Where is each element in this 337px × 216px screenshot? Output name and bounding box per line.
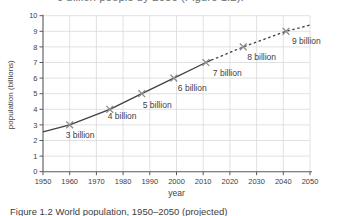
y-tick-label: 10 — [29, 11, 37, 20]
population-line-chart: 0123456789101950196019701980199020002010… — [0, 0, 337, 204]
x-tick-label: 2040 — [275, 177, 292, 186]
x-tick-label: 2050 — [302, 177, 319, 186]
x-tick-label: 1970 — [88, 177, 105, 186]
x-tick-label: 2010 — [195, 177, 212, 186]
y-tick-label: 4 — [33, 105, 37, 114]
x-tick-label: 1980 — [115, 177, 132, 186]
y-tick-label: 3 — [33, 121, 37, 130]
y-tick-label: 2 — [33, 136, 37, 145]
x-tick-label: 2000 — [168, 177, 185, 186]
y-tick-label: 5 — [33, 89, 37, 98]
y-tick-label: 1 — [33, 152, 37, 161]
milestone-label: 9 billion — [292, 36, 321, 46]
y-tick-label: 6 — [33, 74, 37, 83]
milestone-label: 6 billion — [178, 83, 207, 93]
x-tick-label: 2030 — [248, 177, 265, 186]
y-axis-title: population (billions) — [7, 60, 16, 129]
milestone-label: 3 billion — [66, 130, 95, 140]
x-tick-label: 2020 — [222, 177, 239, 186]
y-tick-label: 0 — [33, 167, 37, 176]
milestone-label: 8 billion — [247, 52, 276, 62]
y-tick-label: 9 — [33, 27, 37, 36]
milestone-label: 7 billion — [213, 68, 242, 78]
x-tick-label: 1950 — [35, 177, 52, 186]
y-tick-label: 7 — [33, 58, 37, 67]
figure-caption: Figure 1.2 World population, 1950–2050 (… — [10, 206, 330, 216]
y-tick-label: 8 — [33, 43, 37, 52]
x-axis-title: year — [168, 188, 185, 198]
milestone-label: 4 billion — [108, 111, 137, 121]
x-tick-label: 1990 — [141, 177, 158, 186]
x-tick-label: 1960 — [61, 177, 78, 186]
figure-page: 9 billion people by 2050 (Figure 1.2). 0… — [0, 0, 337, 216]
milestone-label: 5 billion — [143, 100, 172, 110]
